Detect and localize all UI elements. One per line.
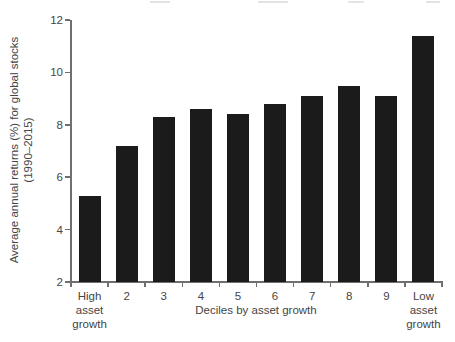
x-category-label: 5 (235, 289, 241, 303)
y-axis-title-line2: (1990–2015) (21, 37, 35, 264)
x-tick-mark (404, 282, 406, 287)
y-tick-mark (65, 176, 70, 178)
cropped-text-remnant (348, 1, 364, 3)
y-tick-label: 8 (37, 118, 63, 132)
x-category-label: 4 (198, 289, 204, 303)
y-tick-label: 10 (37, 65, 63, 79)
bar (338, 86, 360, 283)
bar (264, 104, 286, 282)
y-tick-mark (65, 124, 70, 126)
y-tick-mark (65, 19, 70, 21)
y-tick-label: 6 (37, 170, 63, 184)
x-tick-mark (256, 282, 258, 287)
x-category-label: Low asset growth (406, 289, 441, 331)
bar (190, 109, 212, 282)
bar (227, 114, 249, 282)
y-tick-mark (65, 229, 70, 231)
x-category-label: 9 (383, 289, 389, 303)
bar (301, 96, 323, 282)
x-tick-mark (70, 282, 72, 287)
x-category-label: 3 (161, 289, 167, 303)
bar (79, 196, 101, 282)
x-tick-mark (144, 282, 146, 287)
y-axis-title-line1: Average annual returns (%) for global st… (7, 37, 21, 264)
cropped-text-remnant (426, 1, 440, 3)
bar (412, 36, 434, 282)
y-tick-mark (65, 281, 70, 283)
x-tick-mark (219, 282, 221, 287)
x-category-label: High asset growth (72, 289, 107, 331)
x-tick-mark (367, 282, 369, 287)
x-tick-mark (107, 282, 109, 287)
bar (116, 146, 138, 282)
x-category-label: 2 (123, 289, 129, 303)
cropped-text-remnant (258, 1, 288, 3)
x-tick-mark (441, 282, 443, 287)
x-category-label: 8 (346, 289, 352, 303)
y-axis-line (70, 20, 72, 283)
y-tick-label: 4 (37, 223, 63, 237)
bar-chart-figure: Average annual returns (%) for global st… (0, 0, 455, 342)
y-tick-mark (65, 72, 70, 74)
bar (153, 117, 175, 282)
x-category-label: 6 (272, 289, 278, 303)
y-tick-label: 2 (37, 275, 63, 289)
cropped-text-remnant (150, 1, 170, 3)
x-tick-mark (330, 282, 332, 287)
x-axis-title: Deciles by asset growth (195, 303, 316, 317)
x-category-label: 7 (309, 289, 315, 303)
x-tick-mark (182, 282, 184, 287)
bar (375, 96, 397, 282)
y-axis-title: Average annual returns (%) for global st… (7, 37, 35, 264)
y-tick-label: 12 (37, 13, 63, 27)
x-tick-mark (293, 282, 295, 287)
